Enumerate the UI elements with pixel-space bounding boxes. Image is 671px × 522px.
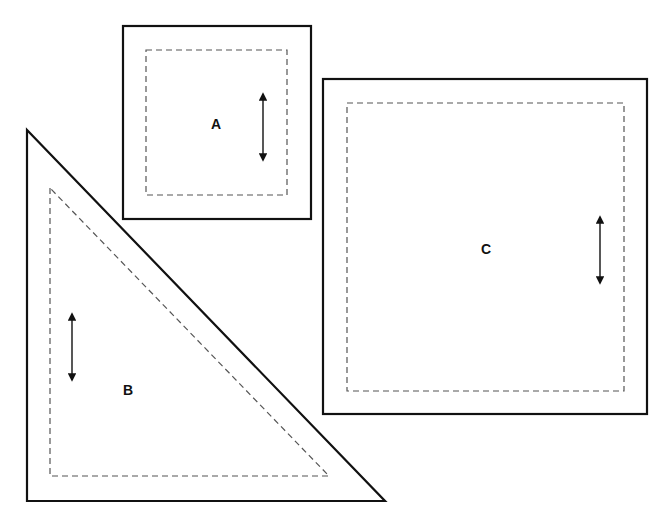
piece-b: B — [27, 130, 385, 501]
piece-b-label: B — [123, 382, 133, 398]
piece-a: A — [123, 26, 311, 219]
piece-b-seam-line — [50, 188, 329, 476]
piece-a-label: A — [211, 116, 221, 132]
piece-b-cut-line — [27, 130, 385, 501]
piece-c-label: C — [481, 241, 491, 257]
pattern-pieces-diagram: A B C — [0, 0, 671, 522]
piece-c: C — [323, 79, 647, 414]
